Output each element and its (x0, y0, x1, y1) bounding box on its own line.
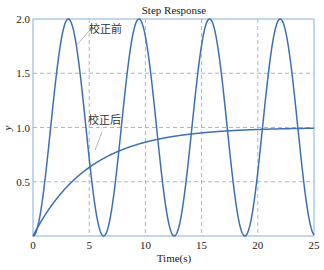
x-tick-label: 0 (30, 239, 36, 251)
annotations: 校正前校正后 (76, 22, 122, 150)
x-tick-label: 5 (86, 239, 92, 251)
x-tick-label: 20 (252, 239, 264, 251)
y-tick-label: 1.0 (16, 122, 30, 134)
y-tick-label: 2.0 (16, 13, 30, 25)
chart-title: Step Response (142, 4, 207, 16)
y-axis-ticks: 0.51.01.52.0 (16, 13, 30, 188)
x-axis-ticks: 0510152025 (30, 239, 320, 251)
x-tick-label: 10 (140, 239, 152, 251)
step-response-chart: 校正前校正后 0510152025 0.51.01.52.0 Step Resp… (0, 0, 324, 270)
x-tick-label: 25 (309, 239, 321, 251)
leader-line-before (76, 31, 89, 46)
y-tick-label: 1.5 (16, 67, 30, 79)
leader-line-after (95, 132, 102, 150)
annotation-after: 校正后 (88, 113, 121, 127)
x-axis-label: Time(s) (157, 252, 192, 265)
y-axis-label: y (1, 125, 13, 131)
annotation-before: 校正前 (89, 22, 122, 36)
x-tick-label: 15 (196, 239, 208, 251)
y-tick-label: 0.5 (16, 176, 30, 188)
